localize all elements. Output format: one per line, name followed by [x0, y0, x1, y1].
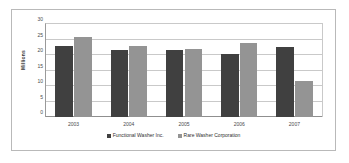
- bar[interactable]: [55, 46, 73, 117]
- legend-label: Functional Washer Inc.: [113, 133, 164, 138]
- x-axis-tick-label: 2005: [156, 121, 211, 127]
- x-axis-tick-label: 2003: [46, 121, 101, 127]
- legend-swatch-icon: [107, 134, 111, 138]
- x-axis-tick-label: 2006: [212, 121, 267, 127]
- legend-label: Rare Washer Corporation: [184, 133, 241, 138]
- plot-area: 051015202530 20032004200520062007: [45, 23, 323, 117]
- bar[interactable]: [240, 43, 258, 117]
- chart-frame: Millions 051015202530 200320042005200620…: [11, 9, 336, 151]
- chart-legend: Functional Washer Inc.Rare Washer Corpor…: [12, 133, 335, 138]
- legend-item[interactable]: Rare Washer Corporation: [178, 133, 241, 138]
- bar[interactable]: [111, 50, 129, 117]
- x-axis-tick-label: 2007: [267, 121, 322, 127]
- y-axis-tick-label: 0: [40, 110, 43, 115]
- legend-item[interactable]: Functional Washer Inc.: [107, 133, 164, 138]
- bar-group: 2006: [212, 24, 267, 117]
- bar-group: 2007: [267, 24, 322, 117]
- bar-group: 2004: [101, 24, 156, 117]
- bar[interactable]: [129, 46, 147, 117]
- bars-layer: 20032004200520062007: [46, 24, 322, 117]
- y-axis-tick-label: 30: [37, 17, 43, 22]
- y-axis-tick-label: 20: [37, 48, 43, 53]
- y-axis-title: Millions: [20, 50, 26, 70]
- bar[interactable]: [166, 50, 184, 117]
- y-axis-tick-label: 5: [40, 94, 43, 99]
- y-axis-tick-label: 10: [37, 79, 43, 84]
- legend-swatch-icon: [178, 134, 182, 138]
- y-axis-tick-label: 25: [37, 32, 43, 37]
- bar[interactable]: [276, 47, 294, 117]
- x-axis-tick-label: 2004: [101, 121, 156, 127]
- y-axis-tick-label: 15: [37, 63, 43, 68]
- bar[interactable]: [185, 49, 203, 117]
- bar-group: 2005: [156, 24, 211, 117]
- bar[interactable]: [74, 37, 92, 117]
- bar-group: 2003: [46, 24, 101, 117]
- bar[interactable]: [221, 54, 239, 117]
- bar[interactable]: [295, 81, 313, 117]
